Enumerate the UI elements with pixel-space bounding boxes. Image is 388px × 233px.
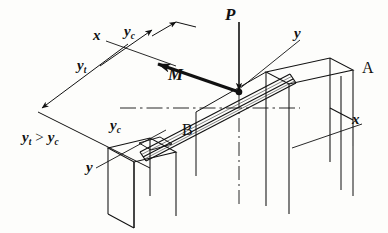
label-axis-x-right: x [352, 112, 360, 127]
inequality-operator: > [31, 129, 47, 145]
label-support-a: A [362, 60, 374, 76]
label-distance-yc-base: y [124, 23, 131, 39]
support-a-body [266, 58, 353, 214]
axis-x-right [292, 124, 362, 148]
label-inequality: yt>yc [22, 130, 59, 145]
inequality-lhs-base: y [22, 129, 29, 145]
label-distance-yt: yt [77, 58, 86, 73]
axis-x-left [106, 41, 176, 66]
label-distance-yc-sub: c [131, 31, 135, 41]
label-distance-yt-sub: t [84, 65, 87, 75]
label-axis-y-left: y [86, 160, 93, 175]
inequality-rhs-sub: c [54, 137, 58, 147]
label-support-b: B [182, 122, 193, 138]
label-axis-x-left: x [93, 28, 101, 43]
label-moment-m: M [168, 66, 183, 83]
label-load-p: P [225, 6, 235, 23]
figure-canvas: P M x x y y yt yc A B yt>yc yc [0, 0, 388, 233]
label-distance-yc-lower-sub: c [117, 125, 121, 135]
inequality-lhs-sub: t [29, 137, 32, 147]
label-distance-yc-lower: yc [110, 118, 121, 133]
label-distance-yc: yc [124, 24, 135, 39]
diagram-linework [0, 0, 388, 233]
label-distance-yc-lower-base: y [110, 117, 117, 133]
yc-dimension-line [152, 22, 196, 36]
beam-member [140, 74, 296, 161]
yt-dimension-line [42, 44, 128, 108]
label-distance-yt-base: y [77, 57, 84, 73]
axis-y-right [238, 40, 300, 90]
label-axis-y-right: y [294, 26, 301, 41]
